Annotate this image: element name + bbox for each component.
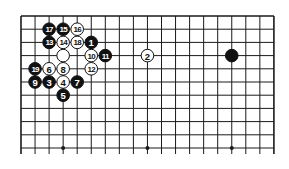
white-stone-8: 8 bbox=[57, 63, 70, 76]
white-stone-6: 6 bbox=[43, 63, 56, 76]
black-stone-1: 1 bbox=[85, 36, 98, 49]
black-stone-9: 9 bbox=[29, 76, 42, 89]
stone-number: 6 bbox=[46, 64, 51, 75]
stone-number: 5 bbox=[61, 90, 67, 101]
black-stone-7: 7 bbox=[71, 76, 84, 89]
black-stone-5: 5 bbox=[57, 89, 70, 102]
black-stone-11: 11 bbox=[99, 49, 112, 62]
black-stone-17: 17 bbox=[43, 23, 56, 36]
stone-number: 9 bbox=[32, 77, 37, 88]
stone-number: 1 bbox=[89, 37, 95, 48]
white-stone-18: 18 bbox=[71, 36, 84, 49]
black-stone-13: 13 bbox=[43, 36, 56, 49]
white-stone-4: 4 bbox=[57, 76, 70, 89]
white-stone-2: 2 bbox=[141, 49, 154, 62]
stone-number: 2 bbox=[145, 51, 150, 62]
stone-number: 7 bbox=[75, 77, 80, 88]
star-point bbox=[145, 146, 149, 150]
white-stone-12: 12 bbox=[85, 63, 98, 76]
stone-number: 8 bbox=[61, 64, 66, 75]
black-stone bbox=[225, 49, 238, 62]
star-point bbox=[61, 146, 65, 150]
black-stone-3: 3 bbox=[43, 76, 56, 89]
white-stone bbox=[57, 49, 70, 62]
black-stone-19: 19 bbox=[29, 63, 42, 76]
white-stone-14: 14 bbox=[57, 36, 70, 49]
white-stone-16: 16 bbox=[71, 23, 84, 36]
star-point bbox=[230, 146, 234, 150]
stone-number: 3 bbox=[46, 77, 51, 88]
black-stone-15: 15 bbox=[57, 23, 70, 36]
stone-number: 4 bbox=[61, 77, 67, 88]
go-board: 12345678910111213141516171819 bbox=[0, 0, 289, 169]
white-stone-10: 10 bbox=[85, 49, 98, 62]
